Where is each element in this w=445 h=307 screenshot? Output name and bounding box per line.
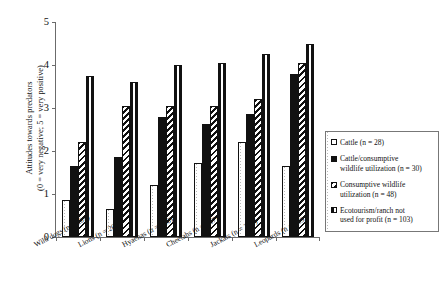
bar-cheetahs-series4[interactable]	[218, 63, 226, 237]
y-axis-tick-label: 2	[44, 146, 49, 157]
bar-lions-series3[interactable]	[122, 106, 130, 237]
bar-leopards-series2[interactable]	[290, 74, 298, 237]
legend-swatch-solid-icon	[331, 156, 337, 162]
bar-hyaenas-series4[interactable]	[174, 65, 182, 237]
y-axis-tick-label: 4	[44, 60, 49, 71]
bar-jackals-series4[interactable]	[262, 54, 270, 237]
bar-group	[56, 22, 100, 237]
y-axis-tick-label: 3	[44, 103, 49, 114]
legend-label-consumptive-line1: Consumptive wildlife	[340, 180, 405, 189]
legend-label-consumptive-line2: utilization (n = 48)	[340, 190, 397, 199]
bar-leopards-series4[interactable]	[306, 44, 314, 238]
y-axis-title-line1: Attitudes towards predators	[24, 65, 35, 191]
y-axis-tick-label: 1	[44, 189, 49, 200]
legend-swatch-diagonal-icon	[331, 182, 337, 188]
legend-swatch-open-icon	[331, 139, 337, 145]
legend-label-cattle-consumptive-line1: Cattle/consumptive	[340, 154, 398, 163]
x-axis-tick	[319, 237, 320, 241]
legend-item-cattle[interactable]: Cattle (n = 28)	[331, 138, 434, 147]
legend-label-ecotourism-line1: Ecotourism/ranch not	[340, 206, 405, 215]
bar-jackals-series3[interactable]	[254, 99, 262, 237]
bar-group	[232, 22, 276, 237]
y-axis-tick-label: 5	[44, 17, 49, 28]
bar-group	[188, 22, 232, 237]
bar-group	[276, 22, 320, 237]
y-axis-title-line2: (0 = very negative; 5 = very positive)	[35, 65, 46, 191]
plot-area: 012345	[55, 22, 320, 238]
bar-group	[144, 22, 188, 237]
bar-leopards-series3[interactable]	[298, 63, 306, 237]
legend-item-consumptive[interactable]: Consumptive wildlife utilization (n = 48…	[331, 180, 434, 199]
y-axis-title: Attitudes towards predators (0 = very ne…	[20, 12, 50, 244]
bar-lions-series4[interactable]	[130, 82, 138, 237]
legend-item-ecotourism[interactable]: Ecotourism/ranch not used for profit (n …	[331, 206, 434, 225]
legend-label-ecotourism-line2: used for profit (n = 103)	[340, 215, 413, 224]
legend-swatch-vertical-icon	[331, 207, 337, 213]
chart-figure: Attitudes towards predators (0 = very ne…	[0, 0, 445, 307]
bar-group	[100, 22, 144, 237]
legend-item-cattle-consumptive[interactable]: Cattle/consumptive wildlife utilization …	[331, 154, 434, 173]
chart-legend: Cattle (n = 28) Cattle/consumptive wildl…	[325, 131, 439, 232]
legend-label-cattle: Cattle (n = 28)	[340, 138, 384, 147]
legend-label-cattle-consumptive-line2: wildlife utilization (n = 30)	[340, 164, 422, 173]
